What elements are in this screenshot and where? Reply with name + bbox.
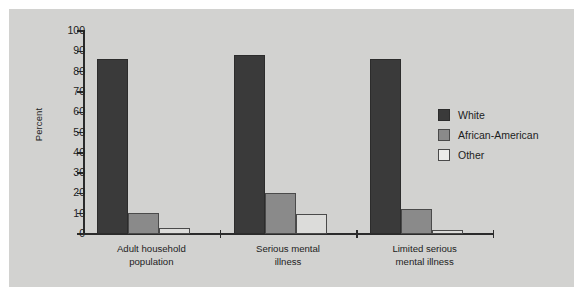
y-tick-label: 10 bbox=[55, 207, 85, 219]
y-tick-label: 40 bbox=[55, 146, 85, 158]
bar bbox=[432, 230, 463, 234]
y-tick-label: 20 bbox=[55, 186, 85, 198]
legend-item: African-American bbox=[438, 125, 539, 145]
chart-legend: WhiteAfrican-AmericanOther bbox=[438, 105, 539, 165]
x-axis-category-label-line: illness bbox=[228, 256, 348, 269]
bar bbox=[401, 209, 432, 234]
x-axis-category-label: Serious mentalillness bbox=[228, 243, 348, 268]
legend-item: White bbox=[438, 105, 539, 125]
y-tick-label: 70 bbox=[55, 85, 85, 97]
legend-label: Other bbox=[458, 149, 484, 161]
x-axis-category-label-line: Limited serious bbox=[365, 243, 485, 256]
plot-area bbox=[83, 31, 493, 234]
legend-swatch-icon bbox=[438, 149, 450, 161]
legend-item: Other bbox=[438, 145, 539, 165]
bar-group bbox=[83, 31, 493, 234]
y-tick-label: 30 bbox=[55, 166, 85, 178]
y-tick-label: 50 bbox=[55, 126, 85, 138]
x-axis-category-label-line: population bbox=[91, 256, 211, 269]
x-axis-category-label: Limited seriousmental illness bbox=[365, 243, 485, 268]
y-tick-label: 100 bbox=[55, 24, 85, 36]
y-tick-label: 80 bbox=[55, 65, 85, 77]
x-axis-category-label-line: Adult household bbox=[91, 243, 211, 256]
legend-label: African-American bbox=[458, 129, 539, 141]
legend-label: White bbox=[458, 109, 485, 121]
y-tick-label: 90 bbox=[55, 44, 85, 56]
bar bbox=[370, 59, 401, 234]
x-axis-category-label: Adult householdpopulation bbox=[91, 243, 211, 268]
chart-figure: Percent 1009080706050403020100 WhiteAfri… bbox=[9, 9, 574, 287]
x-tick-mark bbox=[493, 230, 494, 238]
x-axis-category-label-line: Serious mental bbox=[228, 243, 348, 256]
x-axis-category-label-line: mental illness bbox=[365, 256, 485, 269]
x-tick-mark bbox=[220, 230, 221, 238]
legend-swatch-icon bbox=[438, 109, 450, 121]
y-tick-label: 60 bbox=[55, 105, 85, 117]
y-tick-label: 0 bbox=[55, 227, 85, 239]
legend-swatch-icon bbox=[438, 129, 450, 141]
x-tick-mark bbox=[356, 230, 357, 238]
